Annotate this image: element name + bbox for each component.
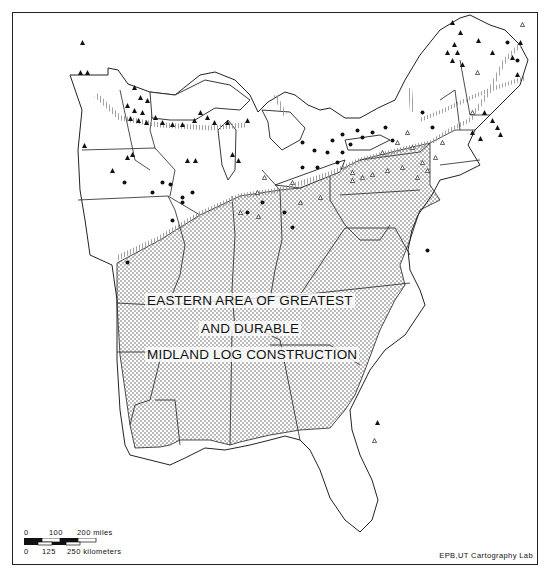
scale-km-250: 250 kilometers bbox=[67, 547, 121, 556]
lake-ontario bbox=[345, 135, 390, 150]
credit-text: EPB,UT Cartography Lab bbox=[439, 551, 533, 560]
scale-km-125: 125 bbox=[42, 547, 56, 556]
scale-km-0: 0 bbox=[24, 547, 29, 556]
lake-huron bbox=[262, 110, 305, 150]
map-canvas bbox=[0, 0, 548, 579]
scale-miles-0: 0 bbox=[24, 528, 29, 537]
scale-miles-200: 200 miles bbox=[77, 528, 113, 537]
scale-miles-100: 100 bbox=[49, 528, 63, 537]
scale-bar-graphic bbox=[24, 538, 104, 546]
scale-bar: 0 100 200 miles 0 125 250 kilometers bbox=[22, 528, 152, 560]
